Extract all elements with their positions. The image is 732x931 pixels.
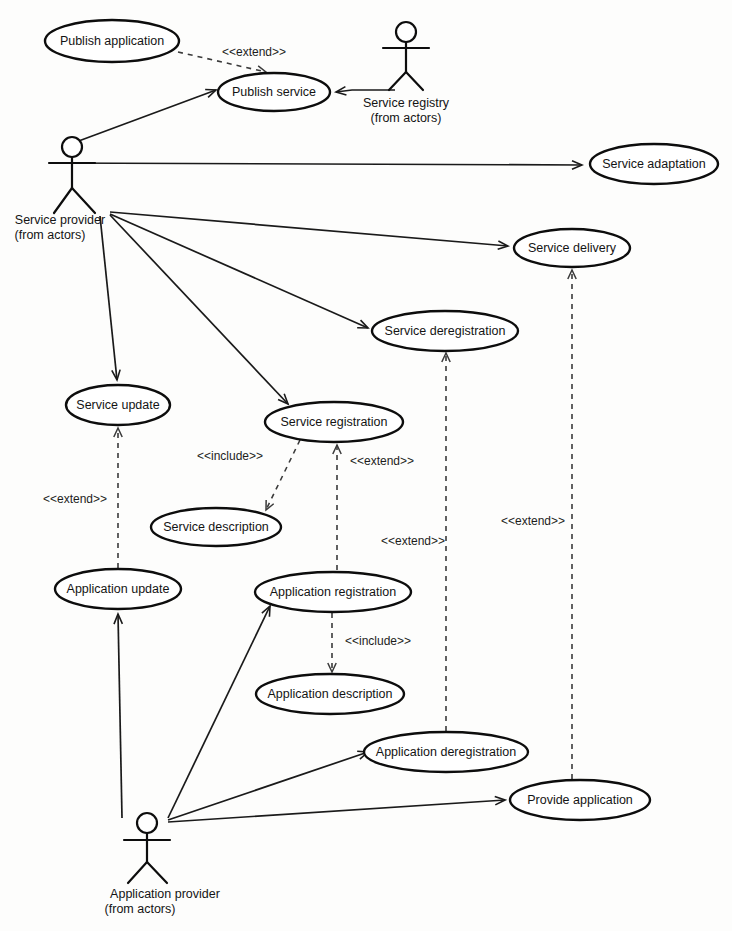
use-case-service-delivery[interactable]: Service delivery [514,229,630,267]
use-case-publish-application[interactable]: Publish application [45,20,179,62]
use-case-application-update[interactable]: Application update [55,569,181,609]
actor-head-icon [62,137,82,157]
use-case-provide-application[interactable]: Provide application [510,780,650,820]
use-case-label: Application description [267,687,392,701]
use-case-application-deregistration[interactable]: Application deregistration [364,732,528,772]
use-case-label: Service adaptation [602,157,706,171]
use-case-label: Application deregistration [376,745,516,759]
actor-head-icon [137,813,157,833]
use-case-service-registration[interactable]: Service registration [265,402,403,442]
use-case-label: Publish application [60,34,164,48]
assoc-service-provider-service-registration [110,215,288,404]
assoc-application-provider-application-deregistration [168,752,368,820]
use-case-label: Publish service [232,85,316,99]
use-case-service-adaptation[interactable]: Service adaptation [590,144,718,184]
stereotype-label-publish-extend: <<extend>> [222,45,286,59]
stereotype-label-provide-application-extend: <<extend>> [501,514,565,528]
actor-service-provider[interactable]: Service provider (from actors) [15,137,106,242]
actor-qualifier: (from actors) [15,228,86,242]
use-case-application-description[interactable]: Application description [256,674,404,714]
use-case-label: Service deregistration [385,324,506,338]
actor-service-registry[interactable]: Service registry (from actors) [363,22,450,125]
use-case-label: Service update [76,398,159,412]
actor-application-provider[interactable]: Application provider (from actors) [105,813,220,916]
use-case-service-deregistration[interactable]: Service deregistration [372,311,518,351]
actor-leg-right [406,72,423,90]
assoc-application-provider-application-registration [168,606,270,818]
diagram-canvas: Publish application Publish service Serv… [0,0,732,931]
actor-qualifier: (from actors) [371,111,442,125]
stereotype-label-application-registration-extend: <<extend>> [350,454,414,468]
stereotype-label-application-update-extend: <<extend>> [43,492,107,506]
use-case-application-registration[interactable]: Application registration [255,572,411,612]
use-case-label: Provide application [527,793,633,807]
use-case-group: Publish application Publish service Serv… [45,20,718,820]
assoc-service-provider-service-adaptation [50,163,582,165]
use-case-label: Application update [67,582,170,596]
actor-leg-left [54,188,72,213]
actor-name: Service provider [15,213,105,227]
actor-qualifier: (from actors) [105,902,176,916]
assoc-service-provider-publish-service [76,90,216,142]
actor-leg-right [72,188,95,213]
use-case-label: Service delivery [528,241,617,255]
use-case-diagram: Publish application Publish service Serv… [0,0,732,931]
actor-name: Service registry [363,96,450,110]
use-case-service-description[interactable]: Service description [151,508,281,546]
use-case-label: Service registration [281,415,388,429]
actor-leg-left [389,72,406,90]
actor-leg-right [147,862,167,883]
stereotype-label-service-registration-include: <<include>> [197,449,263,463]
assoc-service-registry-publish-service [336,90,395,92]
dep-service-registration-service-description [266,440,300,510]
use-case-label: Service description [163,520,269,534]
stereotype-label-application-registration-include: <<include>> [345,634,411,648]
actor-head-icon [396,22,416,42]
assoc-service-provider-service-update [100,216,117,380]
stereotype-label-application-deregistration-extend: <<extend>> [381,534,445,548]
assoc-application-provider-application-update [118,614,122,818]
actor-name: Application provider [110,887,220,901]
use-case-service-update[interactable]: Service update [66,385,170,425]
use-case-publish-service[interactable]: Publish service [218,73,330,111]
use-case-label: Application registration [270,585,397,599]
actor-leg-left [128,862,147,883]
